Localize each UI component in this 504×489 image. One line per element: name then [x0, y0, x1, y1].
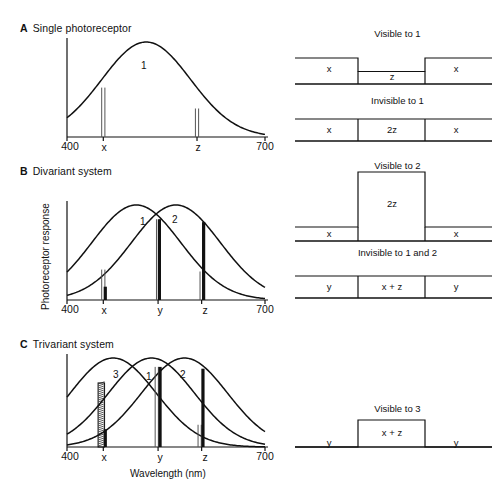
figure-root: ASingle photoreceptor 400 x z 700 1 Visi… — [0, 0, 504, 489]
right-panel-c1 — [0, 0, 504, 489]
rp-c1-seg-2: y — [426, 437, 486, 448]
rp-c1-seg-1: x + z — [358, 427, 426, 438]
rp-c1-seg-0: y — [300, 437, 358, 448]
